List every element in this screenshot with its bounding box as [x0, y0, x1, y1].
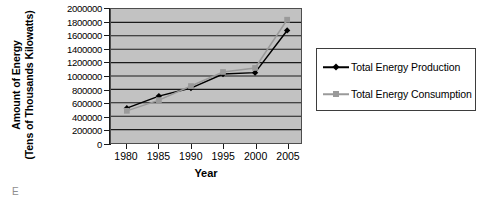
x-tick-mark: [191, 144, 192, 149]
x-tick-label: 1980: [114, 150, 137, 162]
data-point-marker: [284, 17, 290, 23]
y-tick-label: 0: [97, 139, 102, 150]
x-tick-mark: [288, 144, 289, 149]
y-tick-label: 1000000: [67, 71, 102, 82]
page-caption-fragment: E: [12, 186, 472, 204]
y-tick-label: 200000: [72, 125, 102, 136]
y-axis-tick-labels: 0200000400000600000800000100000012000001…: [46, 8, 106, 144]
data-point-marker: [252, 65, 258, 71]
data-point-marker: [156, 97, 162, 103]
legend-label-consumption: Total Energy Consumption: [351, 88, 472, 100]
series-line-consumption: [127, 20, 287, 111]
chart-legend: Total Energy Production Total Energy Con…: [316, 48, 476, 111]
x-tick-mark: [158, 144, 159, 149]
y-tick-label: 800000: [72, 84, 102, 95]
energy-line-chart: Amount of Energy (Tens of Thousands Kilo…: [0, 0, 481, 204]
x-tick-label: 1990: [179, 150, 202, 162]
y-tick-label: 1200000: [67, 57, 102, 68]
y-tick-label: 400000: [72, 111, 102, 122]
y-tick-label: 2000000: [67, 3, 102, 14]
x-tick-label: 1985: [147, 150, 170, 162]
y-tick-label: 1800000: [67, 16, 102, 27]
legend-marker-square-icon: [323, 88, 349, 100]
x-axis-title: Year: [110, 167, 302, 179]
y-tick-label: 1400000: [67, 43, 102, 54]
x-tick-label: 2005: [276, 150, 299, 162]
y-axis-title-line1: Amount of Energy: [10, 40, 22, 129]
series-line-production: [127, 30, 287, 108]
legend-item-production[interactable]: Total Energy Production: [323, 60, 460, 74]
x-tick-mark: [223, 144, 224, 149]
plot-canvas: [111, 9, 301, 143]
y-tick-label: 600000: [72, 98, 102, 109]
data-point-marker: [220, 69, 226, 75]
y-axis-title-line2: (Tens of Thousands Kilowatts): [23, 10, 36, 159]
x-axis-tick-labels: 198019851990199520002005: [96, 150, 316, 166]
x-tick-label: 1995: [212, 150, 235, 162]
legend-marker-diamond-icon: [323, 61, 349, 73]
legend-item-consumption[interactable]: Total Energy Consumption: [323, 87, 472, 101]
x-tick-mark: [126, 144, 127, 149]
x-tick-mark: [256, 144, 257, 149]
data-point-marker: [188, 83, 194, 89]
plot-area: [110, 8, 302, 144]
legend-label-production: Total Energy Production: [351, 61, 460, 73]
data-point-marker: [124, 108, 130, 114]
x-tick-label: 2000: [244, 150, 267, 162]
y-tick-label: 1600000: [67, 30, 102, 41]
y-axis-title: Amount of Energy (Tens of Thousands Kilo…: [0, 0, 46, 170]
